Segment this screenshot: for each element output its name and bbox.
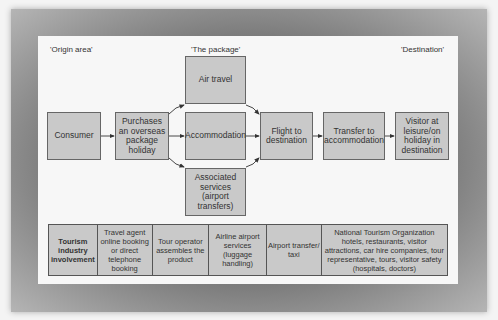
table-cell: Airline airport services (luggage handli… bbox=[209, 225, 267, 275]
industry-involvement-table: Tourism industry involvement Travel agen… bbox=[48, 224, 448, 276]
box-accommodation-text: Accommodation bbox=[185, 131, 246, 141]
box-air-travel: Air travel bbox=[185, 56, 246, 104]
region-label-package: 'The package' bbox=[191, 45, 240, 54]
box-transfer: Transfer to accommodation bbox=[323, 112, 385, 160]
box-consumer-text: Consumer bbox=[54, 131, 93, 141]
table-cell-text: National Tourism Organization hotels, re… bbox=[323, 228, 446, 273]
box-accommodation: Accommodation bbox=[185, 112, 246, 160]
box-flight-text: Flight to destination bbox=[262, 127, 311, 146]
table-cell: Travel agent online booking or direct te… bbox=[98, 225, 153, 275]
box-air-travel-text: Air travel bbox=[199, 75, 233, 85]
table-cell-text: Airline airport services (luggage handli… bbox=[210, 232, 265, 268]
box-visitor: Visitor at leisure/on holiday in destina… bbox=[395, 112, 449, 160]
table-cell-text: Tour operator assembles the product bbox=[154, 237, 208, 264]
table-cell: National Tourism Organization hotels, re… bbox=[322, 225, 447, 275]
table-cell-text: Travel agent online booking or direct te… bbox=[99, 228, 151, 273]
table-cell: Tour operator assembles the product bbox=[153, 225, 210, 275]
box-consumer: Consumer bbox=[47, 112, 101, 160]
table-header-text: Tourism industry involvement bbox=[50, 237, 96, 264]
table-cell: Airport transfer/ taxi bbox=[267, 225, 322, 275]
table-header-cell: Tourism industry involvement bbox=[49, 225, 98, 275]
table-cell-text: Airport transfer/ taxi bbox=[268, 241, 320, 259]
region-label-destination: 'Destination' bbox=[401, 45, 444, 54]
box-flight: Flight to destination bbox=[260, 112, 313, 160]
box-transfer-text: Transfer to accommodation bbox=[324, 127, 384, 146]
region-label-origin: 'Origin area' bbox=[50, 45, 93, 54]
box-associated-services: Associated services (airport transfers) bbox=[185, 168, 246, 216]
box-purchases-text: Purchases an overseas package holiday bbox=[117, 117, 167, 155]
box-purchases: Purchases an overseas package holiday bbox=[115, 112, 169, 160]
box-associated-services-text: Associated services (airport transfers) bbox=[187, 173, 244, 211]
box-visitor-text: Visitor at leisure/on holiday in destina… bbox=[397, 117, 447, 155]
